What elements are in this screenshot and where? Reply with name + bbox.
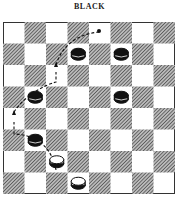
dark-square <box>154 108 176 130</box>
dark-squares <box>3 22 175 194</box>
dark-square <box>46 173 68 195</box>
dark-square <box>25 151 47 173</box>
dark-square <box>111 65 133 87</box>
dark-square <box>25 65 47 87</box>
black-checker[interactable] <box>114 48 128 60</box>
dark-square <box>111 108 133 130</box>
dark-square <box>132 130 154 152</box>
dark-square <box>89 44 111 66</box>
dark-square <box>68 22 90 44</box>
dark-square <box>46 87 68 109</box>
dark-square <box>68 65 90 87</box>
dark-square <box>111 151 133 173</box>
target-dot-icon <box>97 29 101 33</box>
white-checker[interactable] <box>71 177 85 189</box>
dark-square <box>154 151 176 173</box>
dark-square <box>132 87 154 109</box>
dark-square <box>68 151 90 173</box>
black-checker[interactable] <box>71 48 85 60</box>
board-svg <box>0 0 179 206</box>
dark-square <box>89 130 111 152</box>
dark-square <box>68 108 90 130</box>
dark-square <box>46 44 68 66</box>
black-checker[interactable] <box>114 91 128 103</box>
dark-square <box>3 44 25 66</box>
dark-square <box>3 173 25 195</box>
dark-square <box>25 22 47 44</box>
dark-square <box>46 130 68 152</box>
black-checker[interactable] <box>28 91 42 103</box>
white-checker[interactable] <box>50 156 64 168</box>
dark-square <box>3 87 25 109</box>
dark-square <box>154 65 176 87</box>
black-checker[interactable] <box>28 134 42 146</box>
dark-square <box>89 173 111 195</box>
dark-square <box>111 22 133 44</box>
dark-square <box>154 22 176 44</box>
dark-square <box>132 44 154 66</box>
dark-square <box>25 108 47 130</box>
dark-square <box>89 87 111 109</box>
dark-square <box>132 173 154 195</box>
